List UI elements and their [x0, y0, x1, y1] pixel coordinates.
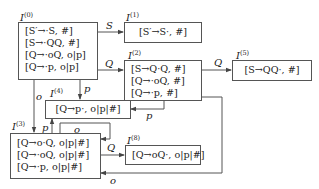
edge-label-i2-i5: Q: [214, 58, 222, 68]
edge-label-i3-i8: Q: [107, 143, 115, 153]
item: [S→Q·Q, #]: [131, 63, 195, 75]
item: [S→·QQ, #]: [25, 37, 91, 49]
state-box-i1: [S′→S·, #]: [124, 22, 202, 43]
edge-label-i2-i3: o: [110, 176, 116, 186]
edge-label-i0-i4: p: [84, 84, 90, 94]
item: [Q→·p, o|p|#]: [17, 161, 94, 173]
edge-label-i2-i4: p: [146, 111, 152, 121]
item: [S′→·S, #]: [25, 25, 91, 37]
item: [Q→·oQ, o|p]: [25, 49, 91, 61]
item: [S′→S·, #]: [131, 26, 195, 38]
edge-label-i0-i2: Q: [105, 59, 113, 69]
item: [Q→·oQ, o|p|#]: [17, 149, 94, 161]
state-box-i8: [Q→oQ·, o|p|#]: [125, 145, 201, 165]
edge-label-i0-i1: S: [106, 21, 113, 31]
edge-label-i0-i3: o: [36, 92, 42, 102]
item: [Q→p·, o|p|#]: [52, 103, 124, 115]
state-label-i4: I(4): [50, 86, 63, 99]
item: [Q→o·Q, o|p|#]: [17, 137, 94, 149]
state-box-i3: [Q→o·Q, o|p|#] [Q→·oQ, o|p|#] [Q→·p, o|p…: [10, 133, 101, 179]
edge-label-i3-self: o: [74, 125, 80, 135]
state-box-i0: [S′→·S, #] [S→·QQ, #] [Q→·oQ, o|p] [Q→·p…: [18, 22, 98, 80]
item: [S→QQ·, #]: [239, 64, 305, 76]
state-box-i4: [Q→p·, o|p|#]: [45, 100, 131, 119]
edge-label-i3-i4: p: [42, 123, 48, 133]
item: [Q→oQ·, o|p|#]: [132, 149, 194, 161]
item: [Q→·oQ, #]: [131, 75, 195, 87]
item: [Q→·p, o|p]: [25, 61, 91, 73]
state-box-i2: [S→Q·Q, #] [Q→·oQ, #] [Q→·p, #]: [124, 60, 202, 101]
state-box-i5: [S→QQ·, #]: [232, 60, 312, 81]
item: [Q→·p, #]: [131, 87, 195, 99]
state-label-i3: I(3): [12, 119, 25, 132]
